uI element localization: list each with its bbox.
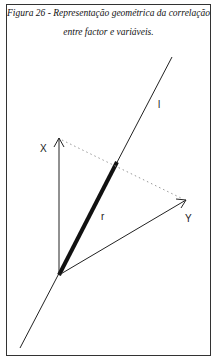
- correlation-diagram: X Y r l: [0, 0, 217, 362]
- projection-dotted-line: [62, 140, 183, 199]
- label-l: l: [158, 99, 160, 110]
- label-r: r: [101, 211, 105, 222]
- label-x: X: [40, 143, 47, 154]
- label-y: Y: [185, 213, 192, 224]
